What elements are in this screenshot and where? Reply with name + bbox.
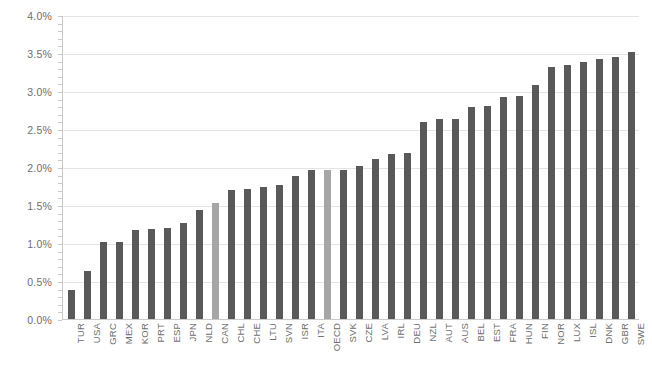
y-axis-minor-tick — [58, 320, 62, 321]
bar-prt[interactable] — [148, 229, 155, 320]
bar-jpn[interactable] — [180, 223, 187, 320]
y-axis-tick-label: 3.0% — [27, 86, 52, 98]
bar-esp[interactable] — [164, 228, 171, 320]
bar-can[interactable] — [212, 203, 219, 320]
bar-slot — [175, 16, 191, 320]
y-axis-minor-tick — [58, 191, 62, 192]
bar-aut[interactable] — [436, 119, 443, 320]
y-axis-tick-label: 3.5% — [27, 48, 52, 60]
bar-svn[interactable] — [276, 185, 283, 320]
y-axis-minor-tick — [58, 259, 62, 260]
x-axis-tick-label-usa: USA — [91, 323, 102, 343]
x-axis-tick-label-oecd: OECD — [331, 323, 342, 351]
bars-layer — [63, 16, 639, 320]
y-axis-minor-tick — [58, 267, 62, 268]
y-axis-minor-tick — [58, 122, 62, 123]
y-axis-minor-tick — [58, 115, 62, 116]
bar-irl[interactable] — [388, 154, 395, 320]
bar-swe[interactable] — [628, 52, 635, 320]
bar-slot — [127, 16, 143, 320]
bar-grc[interactable] — [100, 242, 107, 320]
bar-lva[interactable] — [372, 159, 379, 320]
x-axis-tick-label-deu: DEU — [411, 323, 422, 344]
y-axis-minor-tick — [58, 290, 62, 291]
bar-est[interactable] — [484, 106, 491, 320]
bar-lux[interactable] — [564, 65, 571, 320]
y-axis-tick-label: 0.5% — [27, 276, 52, 288]
bar-aus[interactable] — [452, 119, 459, 320]
bar-ita[interactable] — [308, 170, 315, 320]
bar-svk[interactable] — [340, 170, 347, 320]
bar-dnk[interactable] — [596, 59, 603, 320]
bar-tur[interactable] — [68, 290, 75, 320]
x-axis-tick-label-aut: AUT — [443, 323, 454, 343]
bar-gbr[interactable] — [612, 57, 619, 320]
bar-fin[interactable] — [532, 85, 539, 320]
x-axis-tick-label-mex: MEX — [123, 323, 134, 344]
axis-baseline — [63, 319, 639, 320]
x-axis: TURUSAGRCMEXKORPRTESPJPNNLDCANCHLCHELTUS… — [63, 321, 639, 372]
bar-cze[interactable] — [356, 166, 363, 320]
bar-slot — [623, 16, 639, 320]
x-axis-tick-label-aus: AUS — [459, 323, 470, 343]
x-axis-tick-label-can: CAN — [219, 323, 230, 344]
bar-slot — [255, 16, 271, 320]
bar-kor[interactable] — [132, 230, 139, 320]
y-axis-minor-tick — [58, 214, 62, 215]
bar-nor[interactable] — [548, 67, 555, 320]
bar-slot — [543, 16, 559, 320]
bar-slot — [367, 16, 383, 320]
y-axis-minor-tick — [58, 31, 62, 32]
x-axis-tick-label-swe: SWE — [635, 323, 646, 345]
bar-slot — [431, 16, 447, 320]
bar-isr[interactable] — [292, 176, 299, 320]
y-axis-minor-tick — [58, 153, 62, 154]
y-axis-minor-tick — [58, 69, 62, 70]
x-axis-tick-label-lux: LUX — [571, 323, 582, 342]
x-axis-tick-label-svn: SVN — [283, 323, 294, 343]
bar-usa[interactable] — [84, 271, 91, 320]
bar-bel[interactable] — [468, 107, 475, 320]
x-axis-tick-label-fin: FIN — [539, 323, 550, 339]
y-axis-minor-tick — [58, 305, 62, 306]
bar-slot — [191, 16, 207, 320]
x-axis-tick-label-tur: TUR — [75, 323, 86, 343]
bar-slot — [591, 16, 607, 320]
y-axis-minor-tick — [58, 160, 62, 161]
bar-oecd[interactable] — [324, 170, 331, 320]
y-axis-minor-tick — [58, 274, 62, 275]
bar-slot — [527, 16, 543, 320]
y-axis-minor-tick — [58, 145, 62, 146]
x-axis-tick-label-nor: NOR — [555, 323, 566, 345]
bar-ltu[interactable] — [260, 187, 267, 320]
bar-slot — [111, 16, 127, 320]
y-axis-tick-label: 1.5% — [27, 200, 52, 212]
bar-chl[interactable] — [228, 190, 235, 320]
bar-mex[interactable] — [116, 242, 123, 320]
bar-nld[interactable] — [196, 210, 203, 320]
x-axis-tick-label-nzl: NZL — [427, 323, 438, 342]
bar-fra[interactable] — [500, 97, 507, 320]
bar-slot — [223, 16, 239, 320]
plot-area — [63, 16, 639, 320]
bar-deu[interactable] — [404, 153, 411, 320]
y-axis-minor-tick — [58, 130, 62, 131]
y-axis-minor-tick — [58, 168, 62, 169]
bar-slot — [399, 16, 415, 320]
bar-slot — [63, 16, 79, 320]
y-axis-minor-tick — [58, 236, 62, 237]
x-axis-tick-label-lva: LVA — [379, 323, 390, 340]
y-axis-minor-tick — [58, 229, 62, 230]
x-axis-tick-label-che: CHE — [251, 323, 262, 344]
x-axis-tick-label-bel: BEL — [475, 323, 486, 342]
bar-nzl[interactable] — [420, 122, 427, 320]
bar-slot — [447, 16, 463, 320]
bar-slot — [159, 16, 175, 320]
bar-hun[interactable] — [516, 96, 523, 320]
y-axis-minor-tick — [58, 312, 62, 313]
bar-isl[interactable] — [580, 62, 587, 320]
bar-slot — [143, 16, 159, 320]
y-axis-minor-tick — [58, 100, 62, 101]
bar-che[interactable] — [244, 189, 251, 320]
y-axis-minor-tick — [58, 138, 62, 139]
